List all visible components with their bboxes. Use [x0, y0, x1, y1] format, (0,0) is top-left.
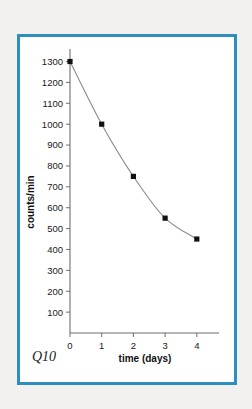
y-tick-label: 400 — [47, 244, 63, 255]
y-tick-label: 300 — [47, 265, 63, 276]
y-tick-label: 700 — [47, 181, 63, 192]
data-point-marker — [99, 122, 104, 127]
decay-curve-chart: 1002003004005006007008009001000110012001… — [20, 37, 234, 382]
y-tick-label: 1100 — [43, 98, 63, 109]
y-tick-label: 200 — [47, 286, 63, 297]
y-tick-label: 600 — [47, 202, 63, 213]
y-tick-labels: 1002003004005006007008009001000110012001… — [42, 56, 63, 318]
y-tick-label: 100 — [47, 307, 63, 318]
x-tick-label: 2 — [131, 340, 136, 351]
x-tick-label: 0 — [67, 340, 72, 351]
y-tick-label: 800 — [47, 160, 63, 171]
data-point-marker — [131, 174, 136, 179]
data-point-markers — [67, 59, 199, 242]
data-point-marker — [67, 59, 72, 64]
question-number-label: Q10 — [32, 349, 56, 364]
x-tick-label: 4 — [194, 340, 199, 351]
x-axis-title: time (days) — [119, 353, 172, 364]
y-axis-group: 1002003004005006007008009001000110012001… — [25, 49, 70, 333]
y-tick-label: 1000 — [42, 119, 63, 130]
y-tick-label: 1300 — [42, 56, 63, 67]
x-tick-label: 1 — [99, 340, 104, 351]
y-tick-label: 900 — [47, 139, 63, 150]
x-tick-label: 3 — [162, 340, 167, 351]
decay-curve-line — [70, 62, 197, 240]
x-axis-group: 01234 time (days) — [67, 333, 219, 364]
data-point-marker — [194, 236, 199, 241]
y-tick-label: 1200 — [42, 77, 63, 88]
y-tick-marks — [66, 62, 70, 313]
y-tick-label: 500 — [47, 223, 63, 234]
y-axis-title: counts/min — [25, 175, 36, 228]
figure-frame: 1002003004005006007008009001000110012001… — [17, 34, 237, 385]
data-point-marker — [163, 216, 168, 221]
x-tick-labels: 01234 — [67, 333, 199, 351]
